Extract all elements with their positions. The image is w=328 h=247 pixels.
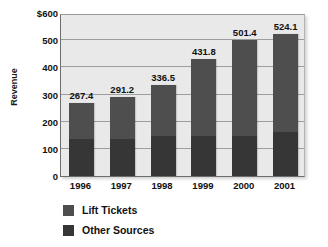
- bar-segment-lift-tickets: [191, 59, 216, 137]
- bar-segment-other-sources: [273, 132, 298, 176]
- bar-group: 501.4: [232, 13, 257, 176]
- bar-segment-lift-tickets: [273, 34, 298, 132]
- bar-segment-other-sources: [232, 136, 257, 176]
- stacked-bar: 524.1: [273, 34, 298, 176]
- bar-value-label: 291.2: [110, 84, 134, 95]
- stacked-bar: 267.4: [69, 103, 94, 176]
- chart-legend: Lift TicketsOther Sources: [63, 200, 263, 240]
- bar-value-label: 336.5: [151, 72, 175, 83]
- bar-value-label: 431.8: [192, 46, 216, 57]
- y-axis-tick-label: 200: [24, 118, 58, 128]
- bar-segment-other-sources: [151, 136, 176, 176]
- x-axis-tick-label: 2001: [264, 180, 305, 191]
- bar-value-label: 267.4: [70, 90, 94, 101]
- x-axis-tick-label: 1998: [142, 180, 183, 191]
- legend-item: Lift Tickets: [63, 200, 263, 220]
- legend-label: Other Sources: [82, 224, 154, 236]
- y-axis-tick-label: 100: [24, 145, 58, 155]
- revenue-bar-chart: Revenue $6005004003002001000 267.4291.23…: [0, 0, 328, 247]
- x-axis-tick-label: 1997: [101, 180, 142, 191]
- bar-group: 267.4: [69, 13, 94, 176]
- bar-group: 336.5: [151, 13, 176, 176]
- stacked-bar: 336.5: [151, 85, 176, 176]
- y-axis-tick-label: 0: [24, 172, 58, 182]
- bar-segment-other-sources: [69, 139, 94, 176]
- bar-segment-lift-tickets: [110, 97, 135, 139]
- bar-segment-lift-tickets: [69, 103, 94, 139]
- x-axis-tick-label: 1996: [60, 180, 101, 191]
- bars-layer: 267.4291.2336.5431.8501.4524.1: [61, 15, 304, 176]
- y-axis-tick-label: 400: [24, 63, 58, 73]
- legend-label: Lift Tickets: [82, 204, 137, 216]
- x-axis-tick-labels: 199619971998199920002001: [60, 180, 305, 194]
- y-axis-tick-labels: $6005004003002001000: [24, 14, 58, 177]
- bar-group: 431.8: [191, 13, 216, 176]
- stacked-bar: 291.2: [110, 97, 135, 176]
- y-axis-tick-label: 500: [24, 36, 58, 46]
- bar-value-label: 501.4: [233, 27, 257, 38]
- bar-value-label: 524.1: [274, 21, 298, 32]
- legend-swatch-icon: [63, 225, 74, 236]
- y-axis-title: Revenue: [9, 57, 19, 117]
- bar-segment-lift-tickets: [151, 85, 176, 136]
- legend-swatch-icon: [63, 205, 74, 216]
- bar-group: 291.2: [110, 13, 135, 176]
- x-axis-tick-label: 1999: [183, 180, 224, 191]
- y-axis-tick-label: 300: [24, 91, 58, 101]
- bar-segment-lift-tickets: [232, 40, 257, 136]
- stacked-bar: 501.4: [232, 40, 257, 176]
- stacked-bar: 431.8: [191, 59, 216, 176]
- y-axis-tick-label: $600: [24, 9, 58, 19]
- bar-segment-other-sources: [110, 139, 135, 176]
- bar-segment-other-sources: [191, 136, 216, 176]
- legend-item: Other Sources: [63, 220, 263, 240]
- bar-group: 524.1: [273, 13, 298, 176]
- x-axis-tick-label: 2000: [223, 180, 264, 191]
- plot-area: 267.4291.2336.5431.8501.4524.1: [60, 14, 305, 177]
